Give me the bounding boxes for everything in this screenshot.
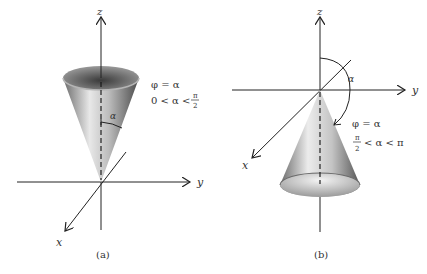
condition-b: < α < π xyxy=(364,137,404,148)
caption-a: (a) xyxy=(96,249,110,260)
z-label-b: z xyxy=(316,6,323,17)
angle-label-b: α xyxy=(348,74,354,84)
condition-a-den: 2 xyxy=(193,102,197,110)
equation-b: φ = α xyxy=(352,118,381,129)
caption-b: (b) xyxy=(314,249,328,260)
condition-a-num: π xyxy=(193,92,198,100)
condition-b-den: 2 xyxy=(355,145,359,153)
equation-a: φ = α xyxy=(151,79,180,90)
condition-b-num: π xyxy=(355,134,360,142)
condition-a: 0 < α < xyxy=(151,95,190,106)
z-label-a: z xyxy=(96,6,103,17)
figure-a: α z y x φ = α 0 < α < π 2 (a) xyxy=(17,6,204,260)
y-label-a: y xyxy=(196,176,204,189)
x-label-a: x xyxy=(56,236,63,249)
cone-diagram: α z y x φ = α 0 < α < π 2 (a) α z y xyxy=(0,0,427,274)
figure-b: α z y x φ = α π 2 < α < π (b) xyxy=(232,6,419,260)
x-label-b: x xyxy=(242,159,249,172)
angle-label-a: α xyxy=(110,111,116,121)
y-label-b: y xyxy=(411,84,419,97)
